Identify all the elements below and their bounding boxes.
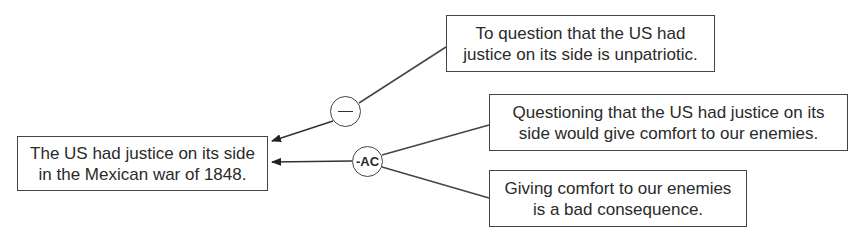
- premise-box-bad-consequence: Giving comfort to our enemies is a bad c…: [489, 170, 747, 227]
- premise-3-line-1: Giving comfort to our enemies: [505, 178, 732, 199]
- premise-1-line-2: justice on its side is unpatriotic.: [463, 44, 697, 65]
- edge-p1-to-minus: [359, 47, 446, 103]
- ac-connector-node: -AC: [352, 146, 383, 177]
- premise-1-line-1: To question that the US had: [476, 23, 686, 44]
- edge-minus-to-conclusion: [272, 121, 333, 141]
- premise-2-line-2: side would give comfort to our enemies.: [519, 123, 819, 144]
- premise-2-line-1: Questioning that the US had justice on i…: [513, 102, 825, 123]
- edge-ac-to-conclusion: [272, 161, 352, 162]
- ac-connector-label: -AC: [356, 154, 379, 169]
- edge-p3-to-ac: [382, 167, 489, 198]
- minus-icon: [338, 111, 353, 113]
- conclusion-line-2: in the Mexican war of 1848.: [39, 164, 247, 185]
- minus-connector-node: [330, 96, 361, 127]
- edge-p2-to-ac: [382, 125, 489, 155]
- premise-3-line-2: is a bad consequence.: [533, 199, 703, 220]
- conclusion-box: The US had justice on its side in the Me…: [17, 136, 268, 191]
- conclusion-line-1: The US had justice on its side: [30, 143, 255, 164]
- premise-box-comfort-enemies: Questioning that the US had justice on i…: [489, 94, 848, 151]
- premise-box-unpatriotic: To question that the US had justice on i…: [446, 15, 715, 72]
